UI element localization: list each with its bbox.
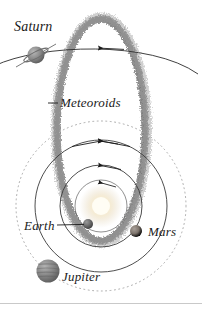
label-mars: Mars (148, 225, 176, 238)
planet-saturn (16, 44, 56, 67)
planet-jupiter (35, 260, 62, 283)
label-jupiter: Jupiter (62, 270, 100, 283)
solar-system-diagram: Saturn Meteoroids Earth Mars Jupiter (0, 0, 202, 313)
label-earth: Earth (24, 219, 55, 232)
planet-mars (130, 225, 142, 237)
diagram-canvas (0, 0, 202, 313)
label-saturn: Saturn (14, 20, 53, 34)
label-meteoroids: Meteoroids (60, 96, 121, 109)
